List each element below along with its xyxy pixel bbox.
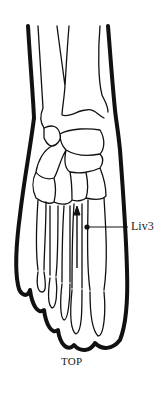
fibula: [38, 26, 44, 128]
tibia: [57, 26, 108, 118]
liv3-point-label: Liv3: [131, 219, 154, 234]
foot-skeleton-diagram: [0, 0, 166, 393]
metatarsals: [37, 198, 107, 290]
view-label: TOP: [61, 355, 82, 367]
up-arrow-icon: [74, 206, 80, 268]
liv3-point-marker: [84, 224, 89, 229]
tarsal-bones: [33, 126, 106, 204]
